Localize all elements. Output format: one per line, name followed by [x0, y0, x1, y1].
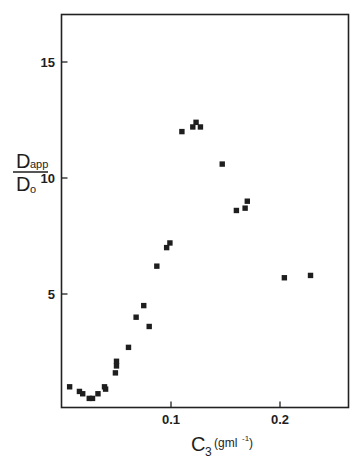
y-axis-ticks: 51015: [41, 55, 68, 302]
data-point-square-marker: [114, 359, 119, 364]
data-point-square-marker: [141, 303, 146, 308]
svg-text:D: D: [16, 150, 30, 172]
data-point-square-marker: [282, 275, 287, 280]
svg-text:C: C: [191, 433, 205, 455]
scatter-chart: 51015 0.10.2 D app D o C 3 (gml -1 ): [0, 0, 359, 468]
svg-text:(gml: (gml: [214, 436, 237, 450]
data-point-square-marker: [179, 129, 184, 134]
data-points: [67, 120, 313, 401]
data-point-square-marker: [193, 120, 198, 125]
data-point-square-marker: [80, 391, 85, 396]
data-point-square-marker: [164, 245, 169, 250]
y-tick-label: 15: [41, 55, 55, 70]
data-point-square-marker: [245, 199, 250, 204]
data-point-square-marker: [154, 263, 159, 268]
data-point-square-marker: [113, 370, 118, 375]
data-point-square-marker: [220, 161, 225, 166]
data-point-square-marker: [167, 240, 172, 245]
svg-text:): ): [249, 436, 253, 450]
data-point-square-marker: [114, 363, 119, 368]
svg-text:D: D: [16, 173, 30, 195]
x-axis-label: C 3 (gml -1 ): [191, 433, 253, 459]
x-axis-ticks: 0.10.2: [162, 402, 289, 428]
svg-text:app: app: [30, 158, 48, 170]
y-axis-label: D app D o: [13, 150, 48, 195]
y-tick-label: 5: [48, 287, 55, 302]
data-point-square-marker: [308, 273, 313, 278]
plot-frame: [62, 15, 349, 408]
data-point-square-marker: [95, 391, 100, 396]
data-point-square-marker: [242, 205, 247, 210]
data-point-square-marker: [190, 124, 195, 129]
data-point-square-marker: [67, 384, 72, 389]
data-point-square-marker: [147, 324, 152, 329]
data-point-square-marker: [133, 315, 138, 320]
y-tick-label: 10: [41, 171, 55, 186]
data-point-square-marker: [234, 208, 239, 213]
data-point-square-marker: [126, 345, 131, 350]
x-tick-label: 0.2: [271, 412, 289, 427]
data-point-square-marker: [198, 124, 203, 129]
data-point-square-marker: [90, 396, 95, 401]
svg-text:o: o: [30, 183, 36, 195]
data-point-square-marker: [103, 386, 108, 391]
svg-text:3: 3: [205, 445, 212, 459]
x-tick-label: 0.1: [162, 412, 180, 427]
